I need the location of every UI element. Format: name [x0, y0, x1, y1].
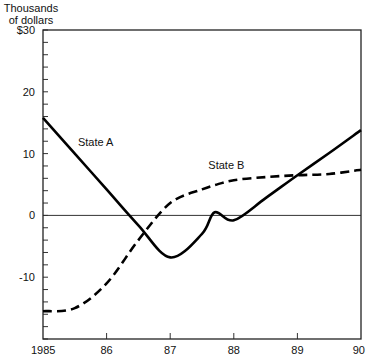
series-label: State A	[78, 136, 114, 148]
x-tick-label: 88	[228, 344, 240, 356]
y-tick-label: $30	[17, 24, 35, 36]
series-labels: State AState B	[78, 136, 244, 171]
y-tick-label: 0	[29, 209, 35, 221]
x-tick-label: 90	[353, 344, 365, 356]
plot-frame	[43, 30, 361, 339]
line-chart: $3020100-10 19858687888990 State AState …	[0, 0, 366, 358]
x-tick-label: 86	[100, 344, 112, 356]
x-tick-label: 1985	[31, 344, 55, 356]
y-tick-label: -10	[19, 271, 35, 283]
x-tick-label: 87	[164, 344, 176, 356]
series-label: State B	[208, 159, 244, 171]
x-axis-ticks: 19858687888990	[31, 333, 365, 356]
y-tick-label: 10	[23, 148, 35, 160]
y-tick-label: 20	[23, 86, 35, 98]
series-line-state-b	[43, 170, 361, 312]
x-tick-label: 89	[291, 344, 303, 356]
